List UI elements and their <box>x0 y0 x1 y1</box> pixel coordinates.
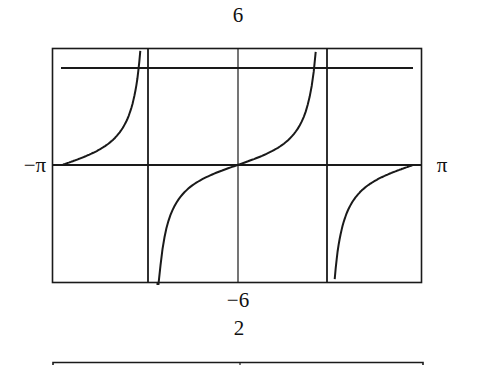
tan-plot <box>0 0 478 365</box>
